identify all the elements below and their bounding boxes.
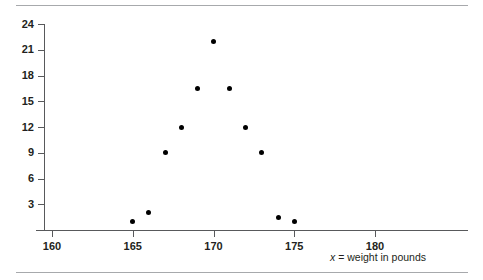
scatter-plot: 3691215182124 160165170175180 x = weight… xyxy=(0,0,483,280)
figure-page: 3691215182124 160165170175180 x = weight… xyxy=(0,0,483,280)
y-axis-tick xyxy=(38,153,44,154)
data-point xyxy=(211,39,216,44)
y-axis-tick xyxy=(38,50,44,51)
data-point xyxy=(227,86,232,91)
y-axis-tick xyxy=(38,179,44,180)
y-axis-tick-label-text: 24 xyxy=(4,19,34,30)
x-axis-tick xyxy=(52,231,53,237)
y-axis-tick xyxy=(38,76,44,77)
data-point xyxy=(163,150,168,155)
x-axis-tick xyxy=(294,231,295,237)
data-point xyxy=(243,125,248,130)
y-axis-tick xyxy=(38,24,44,25)
y-axis-tick-label-text: 12 xyxy=(4,122,34,133)
y-axis-tick-label: 9 xyxy=(0,147,34,158)
x-axis-tick-label: 160 xyxy=(32,240,72,252)
data-point xyxy=(259,150,264,155)
x-axis-tick xyxy=(133,231,134,237)
data-point xyxy=(292,219,297,224)
y-axis-tick-label-text: 9 xyxy=(4,147,34,158)
x-axis-tick-label: 175 xyxy=(274,240,314,252)
y-axis-tick-label: 21 xyxy=(0,44,34,55)
x-axis-line xyxy=(36,230,468,231)
y-axis-tick-label-text: 21 xyxy=(4,44,34,55)
y-axis-tick-label: 18 xyxy=(0,70,34,81)
data-point xyxy=(146,210,151,215)
y-axis-tick-label: 12 xyxy=(0,122,34,133)
y-axis-tick-label-text: 18 xyxy=(4,70,34,81)
y-axis-tick-label: 6 xyxy=(0,173,34,184)
y-axis-tick-label: 24 xyxy=(0,19,34,30)
x-axis-tick xyxy=(375,231,376,237)
data-point xyxy=(130,219,135,224)
y-axis-tick xyxy=(38,101,44,102)
x-axis-title-text: = weight in pounds xyxy=(335,251,426,263)
data-point xyxy=(179,125,184,130)
y-axis-tick xyxy=(38,204,44,205)
bottom-divider-rule xyxy=(16,272,468,273)
y-axis-tick xyxy=(38,127,44,128)
data-point xyxy=(276,215,281,220)
y-axis-tick-label: 15 xyxy=(0,96,34,107)
y-axis-tick-label-text: 3 xyxy=(4,199,34,210)
y-axis-tick-label-text: 6 xyxy=(4,173,34,184)
y-axis-line xyxy=(44,24,45,231)
y-axis-tick-label-text: 15 xyxy=(4,96,34,107)
x-axis-tick-label: 170 xyxy=(194,240,234,252)
x-axis-title: x = weight in pounds xyxy=(330,251,426,263)
x-axis-tick xyxy=(214,231,215,237)
x-axis-tick-label: 165 xyxy=(113,240,153,252)
data-point xyxy=(195,86,200,91)
y-axis-tick-label: 3 xyxy=(0,199,34,210)
